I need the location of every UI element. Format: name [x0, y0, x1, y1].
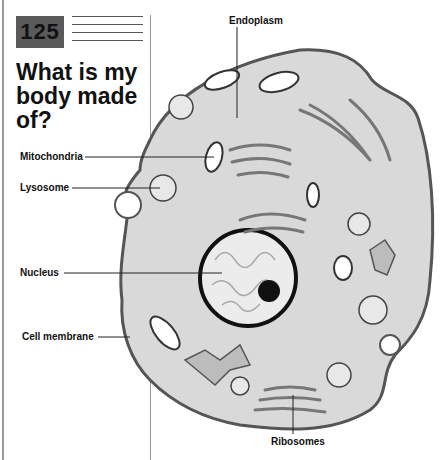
- lysosome-shape: [359, 296, 387, 324]
- label-ribosomes: Ribosomes: [271, 436, 325, 447]
- label-mitochondria: Mitochondria: [20, 151, 83, 162]
- lysosome-shape: [327, 363, 351, 387]
- label-cell-membrane: Cell membrane: [22, 331, 94, 342]
- nucleolus-shape: [258, 280, 280, 302]
- mitochondrion-shape: [334, 256, 352, 280]
- label-endoplasm: Endoplasm: [229, 15, 283, 26]
- mitochondrion-shape: [307, 183, 319, 207]
- label-lysosome: Lysosome: [20, 182, 69, 193]
- lysosome-shape: [231, 377, 249, 395]
- label-nucleus: Nucleus: [20, 267, 59, 278]
- lysosome-shape: [169, 95, 193, 119]
- lysosome-shape: [348, 213, 370, 235]
- cell-diagram: [0, 0, 443, 460]
